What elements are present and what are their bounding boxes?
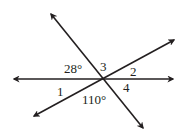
angle-label-4: 4 xyxy=(123,80,130,95)
angle-label-1: 1 xyxy=(57,84,64,99)
angle-label-2: 2 xyxy=(130,64,137,79)
angle-label-110: 110° xyxy=(82,92,106,107)
angle-label-28: 28° xyxy=(64,61,82,76)
angle-diagram: 28° 3 2 1 110° 4 xyxy=(0,0,185,135)
angle-label-3: 3 xyxy=(100,59,107,74)
